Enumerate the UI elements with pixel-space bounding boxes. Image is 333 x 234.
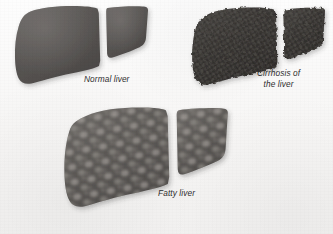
normal-liver-left-lobe-sheen	[15, 6, 100, 84]
figure-fatty-liver	[56, 105, 236, 225]
fatty-liver-drawing	[56, 105, 236, 225]
label-fatty-liver: Fatty liver	[158, 188, 195, 199]
label-cirrhosis-liver: Cirrhosis of the liver	[257, 68, 300, 89]
cirrhosis-right-lobe-nodules	[283, 8, 325, 59]
normal-liver-right-lobe-sheen	[106, 6, 148, 57]
label-normal-liver: Normal liver	[84, 74, 129, 85]
figure-normal-liver	[6, 4, 154, 92]
normal-liver-drawing	[6, 4, 154, 92]
